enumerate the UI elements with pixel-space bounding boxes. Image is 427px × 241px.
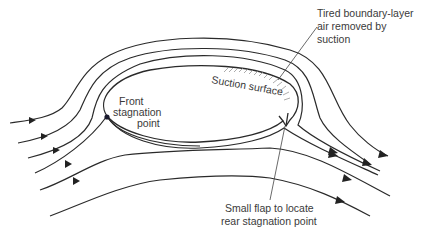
streamline-5 bbox=[40, 148, 390, 196]
label-line: Small flap to locate bbox=[225, 202, 314, 214]
front-stagnation-label: Front stagnation point bbox=[113, 95, 162, 129]
label-line: point bbox=[137, 117, 160, 129]
flow-diagram: Tired boundary-layer air removed by suct… bbox=[0, 0, 427, 241]
streamline-4 bbox=[35, 116, 378, 175]
front-stagnation-point-marker bbox=[104, 114, 109, 119]
suction-leader-line bbox=[278, 27, 317, 80]
label-line: suction bbox=[317, 33, 350, 45]
streamline-6 bbox=[50, 176, 370, 216]
label-line: Tired boundary-layer bbox=[317, 7, 414, 19]
label-line: air removed by bbox=[317, 20, 387, 32]
streamline-3 bbox=[28, 56, 380, 171]
suction-surface-label: Suction surface bbox=[211, 73, 285, 97]
label-line: rear stagnation point bbox=[221, 215, 317, 227]
flap-leader-line bbox=[270, 126, 285, 200]
flap-label: Small flap to locate rear stagnation poi… bbox=[221, 202, 317, 227]
suction-removed-label: Tired boundary-layer air removed by suct… bbox=[317, 7, 414, 45]
rear-flap bbox=[279, 113, 288, 126]
